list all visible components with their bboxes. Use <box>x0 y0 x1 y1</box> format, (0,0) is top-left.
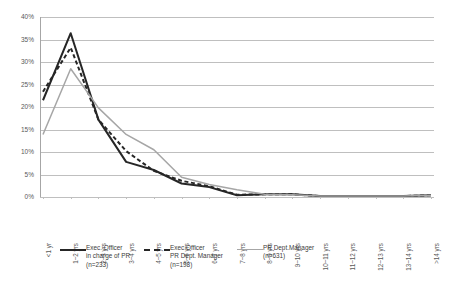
x-axis-tick <box>98 197 99 199</box>
x-axis-tick <box>320 197 321 199</box>
legend-key-solid-dark-icon <box>60 246 86 254</box>
legend-label: Exec. Officerin charge of PR(n=233) <box>86 244 130 269</box>
legend-label-line: (n=233) <box>86 261 130 269</box>
y-axis-tick-label: 20% <box>21 104 34 111</box>
legend-label: PR Dept.Manager(n=631) <box>263 244 314 261</box>
chart-legend: Exec. Officerin charge of PR(n=233)Exec.… <box>60 244 400 282</box>
legend-label-line: (n=631) <box>263 252 314 260</box>
legend-item: Exec.OfficerPR Dept. Manager(n=198) <box>144 244 223 269</box>
x-axis-tick <box>237 197 238 199</box>
x-axis-tick <box>265 197 266 199</box>
x-axis-tick <box>403 197 404 199</box>
x-axis-tick <box>431 197 432 199</box>
series-lines <box>40 17 434 197</box>
legend-label-line: Exec.Officer <box>170 244 223 252</box>
y-axis-tick-label: 5% <box>25 171 34 178</box>
y-axis-tick-label: 30% <box>21 59 34 66</box>
x-axis-tick <box>209 197 210 199</box>
legend-label-line: Exec. Officer <box>86 244 130 252</box>
y-axis-tick-label: 15% <box>21 126 34 133</box>
legend-label: Exec.OfficerPR Dept. Manager(n=198) <box>170 244 223 269</box>
legend-label-line: PR Dept.Manager <box>263 244 314 252</box>
x-axis-tick <box>71 197 72 199</box>
x-axis-tick <box>182 197 183 199</box>
series-line <box>43 69 431 196</box>
y-axis-tick-labels: 0%5%10%15%20%25%30%35%40% <box>0 17 36 197</box>
x-axis-tick-label: 13~14 yrs <box>406 243 412 271</box>
x-axis-tick <box>348 197 349 199</box>
y-axis-tick-label: 25% <box>21 81 34 88</box>
x-axis-tick-label: >14 yrs <box>434 243 440 264</box>
x-axis-tick <box>292 197 293 199</box>
legend-key-solid-grey-icon <box>237 246 263 254</box>
legend-item: Exec. Officerin charge of PR(n=233) <box>60 244 130 269</box>
y-axis-tick-label: 0% <box>25 194 34 201</box>
y-axis-tick-label: 40% <box>21 14 34 21</box>
series-line <box>43 48 431 197</box>
legend-label-line: PR Dept. Manager <box>170 252 223 260</box>
x-axis-tick <box>154 197 155 199</box>
legend-key-dash-dark-icon <box>144 246 170 254</box>
legend-label-line: (n=198) <box>170 261 223 269</box>
legend-item: PR Dept.Manager(n=631) <box>237 244 314 261</box>
x-axis-tick <box>43 197 44 199</box>
x-axis-tick <box>376 197 377 199</box>
y-axis-tick-label: 10% <box>21 149 34 156</box>
legend-label-line: in charge of PR <box>86 252 130 260</box>
x-axis-tick-labels: <1 yr1~2 yrs2~3 yrs3~4 yrs4~5 yrs5~6 yrs… <box>40 199 434 245</box>
series-line <box>43 33 431 196</box>
chart-screenshot: 0%5%10%15%20%25%30%35%40% <1 yr1~2 yrs2~… <box>0 0 453 287</box>
x-axis-tick-label: <1 yr <box>46 243 52 257</box>
y-axis-tick-label: 35% <box>21 36 34 43</box>
x-axis-tick <box>126 197 127 199</box>
